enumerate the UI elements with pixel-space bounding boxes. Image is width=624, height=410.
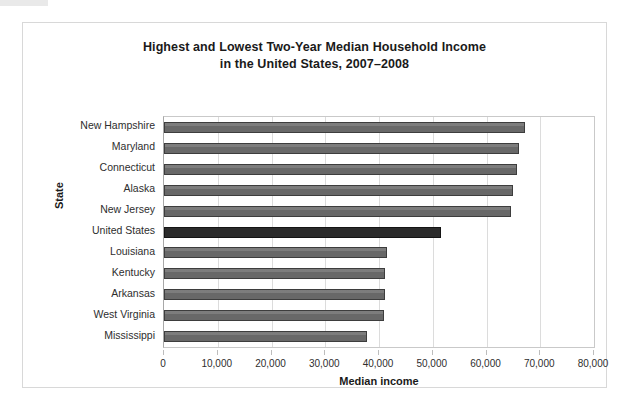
- y-axis-tick-label: Maryland: [35, 140, 155, 152]
- bar-row: [164, 164, 594, 175]
- y-axis-tick-label: West Virginia: [35, 308, 155, 320]
- x-axis-tick-mark: [593, 350, 594, 355]
- y-axis-tick-label: Alaska: [35, 182, 155, 194]
- bar-row: [164, 268, 594, 279]
- x-axis-tick-mark: [163, 350, 164, 355]
- x-axis-tick-mark: [539, 350, 540, 355]
- x-axis-tick-mark: [432, 350, 433, 355]
- x-axis-tick-label: 50,000: [416, 358, 447, 369]
- y-axis-tick-label: Mississippi: [35, 329, 155, 341]
- x-axis-tick-label: 0: [160, 358, 166, 369]
- bar-united-states: [164, 227, 441, 238]
- y-axis-tick-label: Arkansas: [35, 287, 155, 299]
- bar-connecticut: [164, 164, 517, 175]
- bar-arkansas: [164, 289, 385, 300]
- x-axis-tick-label: 80,000: [578, 358, 609, 369]
- x-axis-tick-label: 30,000: [309, 358, 340, 369]
- plot-area: [163, 116, 595, 348]
- bar-new-hampshire: [164, 122, 525, 133]
- bar-row: [164, 310, 594, 321]
- x-axis-tick-label: 60,000: [470, 358, 501, 369]
- chart-title: Highest and Lowest Two-Year Median House…: [23, 39, 606, 73]
- bar-west-virginia: [164, 310, 384, 321]
- bar-row: [164, 206, 594, 217]
- y-axis-tick-label: Louisiana: [35, 245, 155, 257]
- y-axis-tick-label: United States: [35, 224, 155, 236]
- x-axis-title: Median income: [163, 375, 595, 387]
- x-axis-tick-mark: [217, 350, 218, 355]
- x-axis-tick-label: 10,000: [201, 358, 232, 369]
- chart-frame: Highest and Lowest Two-Year Median House…: [22, 22, 607, 388]
- bar-mississippi: [164, 331, 367, 342]
- bar-row: [164, 143, 594, 154]
- y-axis-tick-label: New Jersey: [35, 203, 155, 215]
- x-axis-tick-mark: [378, 350, 379, 355]
- chart-title-line-2: in the United States, 2007–2008: [23, 56, 606, 73]
- x-axis-tick-label: 20,000: [255, 358, 286, 369]
- bar-alaska: [164, 185, 513, 196]
- x-axis-tick-mark: [271, 350, 272, 355]
- x-axis-tick-mark: [486, 350, 487, 355]
- bar-row: [164, 185, 594, 196]
- x-axis-tick-label: 70,000: [524, 358, 555, 369]
- bar-maryland: [164, 143, 519, 154]
- bar-new-jersey: [164, 206, 511, 217]
- bar-row: [164, 247, 594, 258]
- bar-row: [164, 227, 594, 238]
- x-axis-tick-label: 40,000: [363, 358, 394, 369]
- bar-kentucky: [164, 268, 385, 279]
- chart-title-line-1: Highest and Lowest Two-Year Median House…: [143, 40, 486, 54]
- x-axis-tick-labels: 010,00020,00030,00040,00050,00060,00070,…: [163, 350, 595, 372]
- bar-row: [164, 289, 594, 300]
- top-left-image-artifact: [0, 0, 48, 6]
- y-axis-tick-labels: New HampshireMarylandConnecticutAlaskaNe…: [35, 116, 159, 348]
- y-axis-tick-label: Kentucky: [35, 266, 155, 278]
- y-axis-tick-label: New Hampshire: [35, 119, 155, 131]
- bar-louisiana: [164, 247, 387, 258]
- bar-row: [164, 122, 594, 133]
- y-axis-tick-label: Connecticut: [35, 161, 155, 173]
- bar-row: [164, 331, 594, 342]
- x-axis-tick-mark: [324, 350, 325, 355]
